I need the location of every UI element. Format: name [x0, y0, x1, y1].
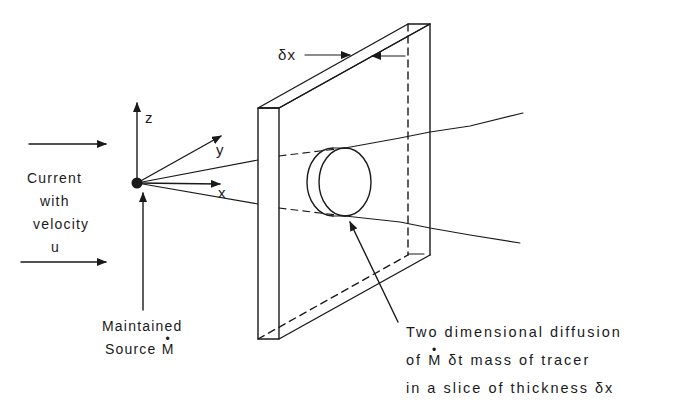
current-label-line2: with: [40, 194, 70, 208]
disc-front-face: [319, 148, 371, 216]
plume-upper-line-inside: [279, 148, 345, 156]
disc-back-face: [307, 148, 333, 216]
source-label-prefix: Source: [105, 341, 162, 357]
z-axis-label: z: [145, 110, 154, 125]
plume-lower-line-inside: [279, 208, 345, 216]
source-label-line1: Maintained: [102, 319, 183, 333]
disc-pointer-arrow: [350, 222, 398, 322]
m-dot-symbol: M: [162, 342, 175, 356]
plume-upper-line-far: [345, 113, 523, 148]
plume-upper-line: [137, 160, 258, 183]
description-line3: in a slice of thickness δx: [406, 381, 614, 396]
description-line1: Two dimensional diffusion: [406, 325, 622, 340]
m-dot-symbol-2: M: [428, 353, 442, 368]
y-axis-arrow: [137, 136, 221, 183]
current-label-line4: u: [51, 240, 60, 254]
current-label-line1: Current: [27, 171, 82, 185]
x-axis-label: x: [218, 185, 227, 200]
description-line2: of M δt mass of tracer: [406, 353, 590, 368]
plume-lower-line-far: [345, 216, 520, 243]
current-label-line3: velocity: [33, 217, 89, 231]
slab-top-face: [258, 24, 430, 108]
plume-lower-line: [137, 183, 258, 204]
slice-thickness-label: δx: [278, 47, 296, 62]
description-line2-prefix: of: [406, 352, 428, 368]
slab-front-edge: [258, 108, 279, 339]
x-axis-arrow: [137, 183, 220, 184]
y-axis-label: y: [216, 142, 225, 157]
source-label-line2: Source M: [105, 342, 175, 356]
description-line2-suffix: δt mass of tracer: [442, 352, 590, 368]
